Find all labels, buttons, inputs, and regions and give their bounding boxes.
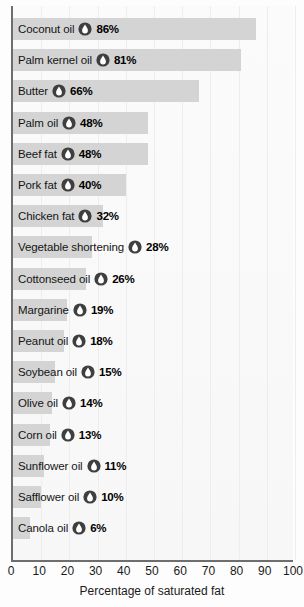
bar-row: Palm kernel oil81%: [13, 49, 295, 71]
oil-drop-icon: [94, 272, 108, 286]
bar-value-label: 66%: [70, 85, 92, 97]
bar-value-label: 32%: [96, 210, 118, 222]
oil-drop-icon: [78, 22, 92, 36]
bar-value-label: 15%: [99, 366, 121, 378]
oil-drop-icon: [128, 240, 142, 254]
bar-row: Pork fat40%: [13, 174, 295, 196]
bar-label-group: Chicken fat32%: [18, 205, 119, 227]
bar-value-label: 48%: [80, 117, 102, 129]
bar-row: Cottonseed oil26%: [13, 268, 295, 290]
bar-value-label: 13%: [79, 429, 101, 441]
bar-category-label: Pork fat: [18, 179, 57, 191]
bar-row: Olive oil14%: [13, 392, 295, 414]
bar-row: Beef fat48%: [13, 143, 295, 165]
bar-label-group: Soybean oil15%: [18, 361, 121, 383]
oil-drop-icon: [61, 428, 75, 442]
bar-row: Margarine19%: [13, 299, 295, 321]
bar-category-label: Olive oil: [18, 397, 58, 409]
bar-label-group: Corn oil13%: [18, 424, 101, 446]
x-axis-tick-label: 70: [202, 564, 215, 578]
bar-label-group: Coconut oil86%: [18, 18, 119, 40]
bar-category-label: Margarine: [18, 304, 69, 316]
x-axis-tick-label: 80: [230, 564, 243, 578]
x-axis-tick-label: 0: [8, 564, 15, 578]
x-axis-tick-label: 10: [33, 564, 46, 578]
bar-value-label: 11%: [105, 460, 127, 472]
bar-value-label: 81%: [114, 54, 136, 66]
bar-label-group: Cottonseed oil26%: [18, 268, 135, 290]
bar-category-label: Cottonseed oil: [18, 273, 90, 285]
bar-label-group: Canola oil6%: [18, 517, 106, 539]
bar-value-label: 48%: [79, 148, 101, 160]
bar-label-group: Peanut oil18%: [18, 330, 113, 352]
bar-category-label: Vegetable shortening: [18, 241, 124, 253]
bar-category-label: Palm kernel oil: [18, 54, 92, 66]
oil-drop-icon: [83, 490, 97, 504]
bar-row: Butter66%: [13, 80, 295, 102]
bar-category-label: Butter: [18, 85, 48, 97]
bar-label-group: Vegetable shortening28%: [18, 236, 168, 258]
oil-drop-icon: [61, 147, 75, 161]
bar-value-label: 40%: [79, 179, 101, 191]
bar-category-label: Sunflower oil: [18, 460, 83, 472]
bar-label-group: Pork fat40%: [18, 174, 101, 196]
bar-category-label: Chicken fat: [18, 210, 74, 222]
bar-row: Canola oil6%: [13, 517, 295, 539]
bar-row: Coconut oil86%: [13, 18, 295, 40]
oil-drop-icon: [62, 396, 76, 410]
bar-label-group: Palm kernel oil81%: [18, 49, 136, 71]
bar-label-group: Butter66%: [18, 80, 93, 102]
bar-row: Chicken fat32%: [13, 205, 295, 227]
x-axis-tick-label: 20: [61, 564, 74, 578]
bar-value-label: 6%: [90, 522, 106, 534]
oil-drop-icon: [87, 459, 101, 473]
bar-value-label: 26%: [112, 273, 134, 285]
bar-category-label: Corn oil: [18, 429, 57, 441]
bar-label-group: Olive oil14%: [18, 392, 102, 414]
oil-drop-icon: [72, 334, 86, 348]
bar-value-label: 86%: [96, 23, 118, 35]
bar-category-label: Safflower oil: [18, 491, 79, 503]
oil-drop-icon: [96, 53, 110, 67]
bar-category-label: Peanut oil: [18, 335, 68, 347]
x-axis-tick-label: 60: [174, 564, 187, 578]
bar-row: Corn oil13%: [13, 424, 295, 446]
bar-row: Palm oil48%: [13, 112, 295, 134]
oil-drop-icon: [78, 209, 92, 223]
bar-category-label: Palm oil: [18, 117, 58, 129]
bar-row: Safflower oil10%: [13, 486, 295, 508]
oil-drop-icon: [61, 178, 75, 192]
oil-drop-icon: [81, 365, 95, 379]
x-axis-tick-label: 40: [117, 564, 130, 578]
saturated-fat-bar-chart: Coconut oil86%Palm kernel oil81%Butter66…: [0, 0, 304, 607]
bar-category-label: Beef fat: [18, 148, 57, 160]
bar-label-group: Palm oil48%: [18, 112, 103, 134]
plot-area: Coconut oil86%Palm kernel oil81%Butter66…: [11, 6, 293, 562]
bar-value-label: 19%: [91, 304, 113, 316]
bar-value-label: 10%: [101, 491, 123, 503]
bar-value-label: 28%: [146, 241, 168, 253]
bar-category-label: Coconut oil: [18, 23, 74, 35]
oil-drop-icon: [62, 116, 76, 130]
bar-row: Peanut oil18%: [13, 330, 295, 352]
x-axis-tick-label: 30: [89, 564, 102, 578]
bar-row: Soybean oil15%: [13, 361, 295, 383]
oil-drop-icon: [52, 84, 66, 98]
x-axis-tick-label: 100: [283, 564, 303, 578]
bar-category-label: Soybean oil: [18, 366, 77, 378]
bar-value-label: 14%: [80, 397, 102, 409]
bar-row: Vegetable shortening28%: [13, 236, 295, 258]
bar-label-group: Safflower oil10%: [18, 486, 124, 508]
x-axis-tick-label: 90: [258, 564, 271, 578]
bar-value-label: 18%: [90, 335, 112, 347]
oil-drop-icon: [73, 303, 87, 317]
x-axis-tick-labels: 0102030405060708090100: [0, 564, 304, 584]
x-axis-title: Percentage of saturated fat: [0, 584, 304, 598]
bar-row: Sunflower oil11%: [13, 455, 295, 477]
bar-category-label: Canola oil: [18, 522, 68, 534]
oil-drop-icon: [72, 521, 86, 535]
x-axis-tick-label: 50: [145, 564, 158, 578]
bar-label-group: Beef fat48%: [18, 143, 101, 165]
gridline: [295, 6, 296, 560]
bar-label-group: Sunflower oil11%: [18, 455, 126, 477]
